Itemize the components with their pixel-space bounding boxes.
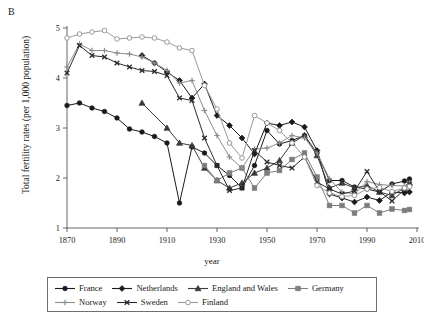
marker-filled-circle [65, 103, 70, 108]
marker-open-circle [407, 184, 412, 189]
legend-item-germany[interactable]: Germany [287, 283, 344, 294]
marker-open-circle [290, 141, 295, 146]
x-tick-label: 1910 [159, 236, 176, 245]
legend-swatch-filled-circle [54, 283, 76, 294]
marker-open-circle [77, 32, 82, 37]
marker-filled-square [296, 286, 301, 291]
y-tick-label: 4 [56, 74, 61, 83]
marker-filled-circle [177, 201, 182, 206]
legend-label: France [79, 284, 102, 293]
marker-filled-square [252, 186, 257, 191]
legend-swatch-filled-diamond [111, 283, 133, 294]
marker-filled-square [377, 211, 382, 216]
marker-filled-circle [115, 116, 120, 121]
marker-filled-square [202, 163, 207, 168]
marker-open-circle [115, 37, 120, 42]
marker-filled-circle [102, 109, 107, 114]
marker-filled-circle [63, 286, 68, 291]
marker-open-circle [315, 183, 320, 188]
legend-label: Netherlands [136, 284, 178, 293]
marker-open-circle [402, 186, 407, 191]
x-tick-label: 1870 [59, 236, 76, 245]
y-tick-label: 2 [56, 174, 60, 183]
marker-open-circle [240, 156, 245, 161]
marker-open-circle [377, 185, 382, 190]
marker-open-circle [302, 155, 307, 160]
series-sweden [65, 43, 412, 203]
legend-swatch-filled-triangle [187, 283, 209, 294]
legend-row-1: FranceNetherlandsEngland and WalesGerman… [54, 281, 370, 295]
legend-swatch-open-circle [177, 297, 199, 308]
y-tick-label: 3 [56, 124, 60, 133]
legend-label: Sweden [141, 298, 168, 307]
marker-filled-diamond [289, 119, 295, 125]
legend-row-2: NorwaySwedenFinland [54, 295, 370, 309]
marker-filled-square [402, 208, 407, 213]
marker-filled-circle [90, 106, 95, 111]
series-line [67, 31, 410, 197]
y-tick-label: 1 [56, 224, 60, 233]
marker-filled-diamond [277, 123, 283, 129]
legend-item-france[interactable]: France [54, 283, 102, 294]
marker-open-circle [227, 141, 232, 146]
marker-filled-circle [127, 127, 132, 132]
marker-filled-circle [152, 134, 157, 139]
marker-open-circle [340, 194, 345, 199]
marker-open-circle [277, 128, 282, 133]
marker-filled-diamond [364, 194, 370, 200]
series-line [67, 46, 410, 202]
legend-swatch-filled-square [287, 283, 309, 294]
marker-open-circle [252, 113, 257, 118]
marker-open-circle [365, 187, 370, 192]
marker-filled-square [277, 168, 282, 173]
marker-open-circle [390, 189, 395, 194]
marker-filled-square [390, 207, 395, 212]
marker-open-circle [102, 28, 107, 33]
x-tick-label: 2010 [409, 236, 424, 245]
figure-panel-b: B Total fertility rates (per 1,000 popul… [0, 0, 424, 317]
x-tick-label: 1890 [109, 236, 126, 245]
marker-filled-diamond [377, 198, 383, 204]
marker-filled-circle [202, 151, 207, 156]
line-chart: 1234518701890191019301950197019902010 [0, 0, 424, 275]
marker-open-circle [202, 83, 207, 88]
legend-item-england-and-wales[interactable]: England and Wales [187, 283, 278, 294]
marker-open-circle [190, 48, 195, 53]
y-tick-label: 5 [56, 24, 60, 33]
marker-filled-diamond [352, 199, 358, 205]
marker-open-circle [90, 30, 95, 35]
marker-filled-triangle [264, 165, 270, 170]
marker-open-circle [177, 46, 182, 51]
marker-open-circle [140, 35, 145, 40]
x-tick-label: 1930 [209, 236, 226, 245]
marker-open-circle [352, 193, 357, 198]
marker-open-circle [165, 40, 170, 45]
marker-filled-diamond [119, 285, 125, 291]
legend-item-netherlands[interactable]: Netherlands [111, 283, 178, 294]
legend-label: Norway [79, 298, 107, 307]
marker-open-circle [127, 36, 132, 41]
marker-filled-square [365, 203, 370, 208]
marker-filled-circle [402, 179, 407, 184]
marker-filled-square [340, 203, 345, 208]
marker-filled-square [327, 203, 332, 208]
marker-open-circle [327, 191, 332, 196]
marker-filled-circle [165, 141, 170, 146]
legend-item-norway[interactable]: Norway [54, 297, 107, 308]
legend-label: Finland [202, 298, 228, 307]
series-england-and-wales [139, 100, 413, 198]
marker-open-circle [265, 121, 270, 126]
legend-item-finland[interactable]: Finland [177, 297, 228, 308]
marker-filled-square [407, 207, 412, 212]
legend-swatch-plus [54, 297, 76, 308]
legend-label: Germany [312, 284, 344, 293]
chart-legend: FranceNetherlandsEngland and WalesGerman… [47, 277, 377, 312]
marker-open-circle [215, 107, 220, 112]
marker-open-circle [186, 300, 191, 305]
marker-filled-square [352, 211, 357, 216]
legend-item-sweden[interactable]: Sweden [116, 297, 168, 308]
marker-filled-square [290, 157, 295, 162]
x-tick-label: 1970 [309, 236, 326, 245]
marker-filled-circle [77, 101, 82, 106]
marker-filled-square [227, 171, 232, 176]
